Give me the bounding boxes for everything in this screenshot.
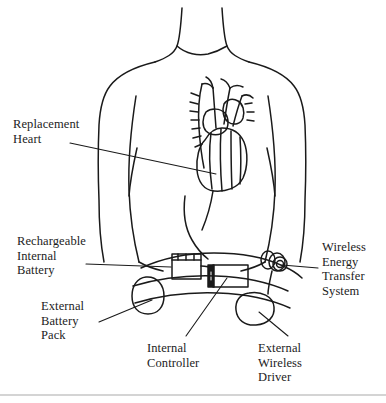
- leader-lines: [70, 143, 318, 336]
- leader-external-battery-pack: [99, 300, 152, 322]
- label-replacement-heart: Replacement Heart: [13, 117, 79, 146]
- leader-replacement-heart: [70, 143, 216, 174]
- leader-internal-controller: [186, 278, 227, 336]
- label-internal-controller: Internal Controller: [147, 341, 199, 370]
- wireless-energy-transfer-coil: [261, 251, 287, 294]
- label-wireless-energy-transfer-system: Wireless Energy Transfer System: [322, 240, 366, 298]
- label-rechargeable-internal-battery: Rechargeable Internal Battery: [17, 234, 86, 278]
- leader-rechargeable-internal-battery: [86, 264, 171, 267]
- torso-outline: [98, 8, 306, 271]
- replacement-heart-illustration: [190, 77, 254, 230]
- bottom-divider: [0, 394, 386, 396]
- label-external-battery-pack: External Battery Pack: [41, 299, 84, 343]
- label-external-wireless-driver: External Wireless Driver: [258, 341, 302, 385]
